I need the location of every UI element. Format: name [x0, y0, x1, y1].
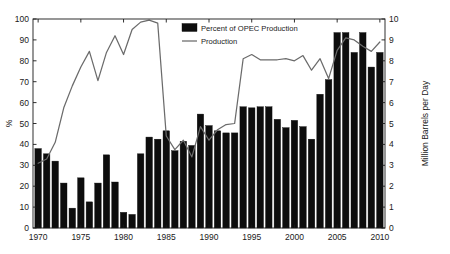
y-tick-label: 70 — [20, 77, 30, 87]
y-tick-label: 100 — [15, 14, 29, 24]
bar — [231, 133, 237, 228]
bar — [291, 120, 297, 228]
y2-tick-label: 5 — [389, 119, 394, 129]
bar — [52, 161, 58, 228]
bar — [35, 149, 41, 228]
bar — [78, 178, 84, 228]
bar — [103, 155, 109, 228]
bar — [154, 139, 160, 228]
y2-tick-label: 4 — [389, 139, 394, 149]
y2-tick-label: 7 — [389, 77, 394, 87]
x-tick-label: 2005 — [328, 232, 347, 242]
x-tick-label: 2000 — [285, 232, 304, 242]
bar — [308, 139, 314, 228]
y-tick-label: 20 — [20, 181, 30, 191]
y2-tick-label: 3 — [389, 160, 394, 170]
y2-tick-label: 6 — [389, 98, 394, 108]
y-tick-label: 90 — [20, 35, 30, 45]
bar — [95, 183, 101, 228]
bar — [317, 94, 323, 228]
bar — [206, 126, 212, 228]
y2-tick-label: 8 — [389, 56, 394, 66]
bar — [283, 128, 289, 228]
bar — [172, 151, 178, 228]
legend-swatch-bar — [182, 24, 197, 32]
bar — [274, 119, 280, 228]
bar — [257, 107, 263, 228]
bar — [86, 202, 92, 228]
x-tick-label: 1975 — [71, 232, 90, 242]
bar — [137, 154, 143, 228]
bar — [334, 33, 340, 228]
bar — [146, 137, 152, 228]
y-tick-label: 30 — [20, 160, 30, 170]
bar — [240, 107, 246, 228]
bar — [266, 107, 272, 228]
y-tick-label: 60 — [20, 98, 30, 108]
bar — [360, 33, 366, 228]
bar — [368, 67, 374, 228]
bar — [189, 145, 195, 228]
bar — [69, 208, 75, 228]
y-axis-title: % — [4, 119, 14, 127]
bar — [180, 141, 186, 228]
y2-tick-label: 2 — [389, 181, 394, 191]
x-tick-label: 1985 — [157, 232, 176, 242]
bar — [342, 33, 348, 228]
bar — [61, 183, 67, 228]
bar — [325, 80, 331, 228]
bar — [129, 214, 135, 228]
chart-svg: 0102030405060708090100012345678910197019… — [0, 0, 450, 254]
legend-label: Percent of OPEC Production — [201, 24, 298, 33]
bar — [43, 154, 49, 228]
bar — [163, 131, 169, 228]
y2-tick-label: 9 — [389, 35, 394, 45]
x-tick-label: 1970 — [29, 232, 48, 242]
y2-axis-title: Million Barrels per Day — [420, 80, 430, 166]
legend-label: Production — [201, 37, 237, 46]
x-tick-label: 1995 — [242, 232, 261, 242]
bar — [351, 52, 357, 228]
y2-tick-label: 10 — [389, 14, 399, 24]
y-tick-label: 50 — [20, 119, 30, 129]
bar — [300, 127, 306, 228]
x-tick-label: 2010 — [370, 232, 389, 242]
x-tick-label: 1990 — [200, 232, 219, 242]
y-tick-label: 80 — [20, 56, 30, 66]
chart-figure: 0102030405060708090100012345678910197019… — [0, 0, 450, 254]
x-tick-label: 1980 — [114, 232, 133, 242]
y2-tick-label: 0 — [389, 223, 394, 233]
y2-tick-label: 1 — [389, 202, 394, 212]
bar — [223, 133, 229, 228]
bar — [377, 52, 383, 228]
bar — [248, 108, 254, 228]
bar — [214, 131, 220, 228]
y-tick-label: 10 — [20, 202, 30, 212]
y-tick-label: 40 — [20, 139, 30, 149]
bar — [112, 182, 118, 228]
chart-canvas: 0102030405060708090100012345678910197019… — [0, 0, 450, 254]
